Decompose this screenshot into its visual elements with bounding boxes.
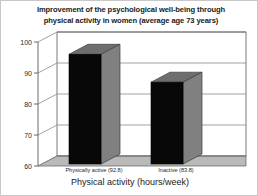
bar-inactive-side (183, 72, 202, 164)
y-axis (34, 42, 38, 166)
axis-depth-lines (38, 32, 57, 166)
y-tick-label-60: 60 (24, 163, 32, 170)
bar-inactive[interactable] (151, 72, 202, 164)
bar-physically-active-front (69, 54, 101, 164)
y-tick-label-80: 80 (24, 101, 32, 108)
bar-chart-plot: 100 90 80 70 60 Physically active (92.8)… (1, 1, 258, 196)
bar-physically-active-side (101, 44, 120, 164)
chart-figure: Improvement of the psychological well-be… (0, 0, 258, 196)
y-tick-label-100: 100 (20, 39, 32, 46)
y-axis-tick-labels: 100 90 80 70 60 (20, 39, 32, 170)
y-tick-label-70: 70 (24, 132, 32, 139)
category-label-inactive: Inactive (83.8) (158, 167, 194, 173)
y-tick-label-90: 90 (24, 70, 32, 77)
category-labels: Physically active (92.8) Inactive (83.8) (65, 167, 193, 173)
category-label-physically-active: Physically active (92.8) (65, 167, 122, 173)
bar-physically-active[interactable] (69, 44, 120, 164)
bar-inactive-front (151, 82, 183, 164)
x-axis-title: Physical activity (hours/week) (1, 177, 258, 187)
